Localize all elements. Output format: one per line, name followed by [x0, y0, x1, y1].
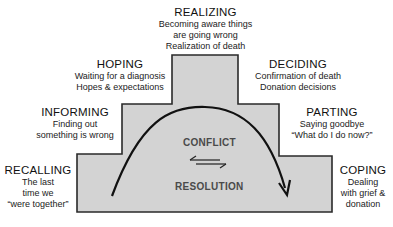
stage-recalling: RECALLING The last time we “were togethe… [2, 163, 74, 210]
stage-description: with grief & [334, 188, 392, 199]
stage-description: The last [2, 177, 74, 188]
stage-title: INFORMING [30, 105, 120, 119]
stage-description: “were together” [2, 199, 74, 210]
stage-description: Becoming aware things [128, 19, 283, 30]
stage-description: Finding out [30, 119, 120, 130]
stage-title: DECIDING [238, 57, 358, 71]
stage-coping: COPING Dealing with grief & donation [334, 163, 392, 210]
stage-parting: PARTING Saying goodbye “What do I do now… [282, 105, 382, 141]
stage-deciding: DECIDING Confirmation of death Donation … [238, 57, 358, 93]
resolution-label: RESOLUTION [175, 181, 244, 192]
stage-realizing: REALIZING Becoming aware things are goin… [128, 5, 283, 52]
stage-description: time we [2, 188, 74, 199]
stage-description: Waiting for a diagnosis [60, 71, 180, 82]
stage-description: Dealing [334, 177, 392, 188]
stage-description: “What do I do now?” [282, 130, 382, 141]
stage-title: RECALLING [2, 163, 74, 177]
stage-hoping: HOPING Waiting for a diagnosis Hopes & e… [60, 57, 180, 93]
stage-description: Realization of death [128, 41, 283, 52]
stage-title: REALIZING [128, 5, 283, 19]
stage-description: Hopes & expectations [60, 82, 180, 93]
stage-title: COPING [334, 163, 392, 177]
stage-informing: INFORMING Finding out something is wrong [30, 105, 120, 141]
conflict-label: CONFLICT [183, 137, 236, 148]
stage-description: Donation decisions [238, 82, 358, 93]
stage-description: something is wrong [30, 130, 120, 141]
stage-title: PARTING [282, 105, 382, 119]
stage-description: are going wrong [128, 30, 283, 41]
stage-description: Saying goodbye [282, 119, 382, 130]
stage-description: Confirmation of death [238, 71, 358, 82]
stage-description: donation [334, 199, 392, 210]
stage-title: HOPING [60, 57, 180, 71]
